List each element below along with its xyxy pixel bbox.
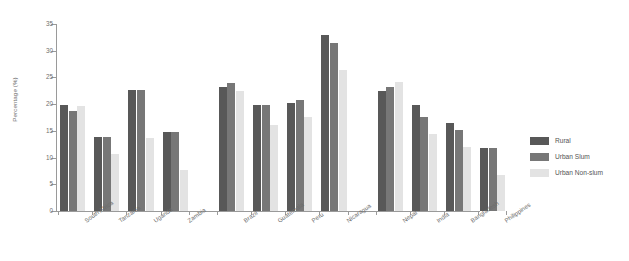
bar	[146, 138, 154, 211]
bar	[395, 82, 403, 211]
x-axis-label: India	[435, 210, 450, 223]
bar	[304, 117, 312, 211]
bar-group	[163, 24, 188, 211]
bar	[378, 91, 386, 211]
bar	[321, 35, 329, 211]
y-tick-label: 10	[46, 154, 53, 161]
y-axis-line	[56, 24, 57, 211]
legend-label: Urban Slum	[555, 153, 590, 160]
bar	[236, 91, 244, 211]
bar	[60, 105, 68, 211]
bar	[171, 132, 179, 211]
y-tick-label: 0	[49, 207, 53, 214]
bar-group	[253, 24, 278, 211]
bar	[296, 100, 304, 211]
legend-item: Urban Slum	[530, 150, 603, 163]
y-tick-label: 5	[49, 180, 53, 187]
bar	[339, 70, 347, 211]
bar	[69, 111, 77, 211]
y-axis-title: Percentage (%)	[11, 50, 18, 150]
legend-swatch	[530, 169, 549, 177]
bar	[219, 87, 227, 211]
bar	[386, 87, 394, 211]
bar-group	[60, 24, 85, 211]
bar-group	[480, 24, 505, 211]
legend-label: Rural	[555, 137, 571, 144]
bar	[270, 125, 278, 211]
bar-group	[128, 24, 153, 211]
y-tick-label: 15	[46, 127, 53, 134]
x-tick-mark	[217, 211, 218, 215]
chart-legend: RuralUrban SlumUrban Non-slum	[530, 134, 603, 182]
bar-group	[378, 24, 403, 211]
bar	[463, 147, 471, 211]
bar	[163, 132, 171, 211]
x-tick-mark	[58, 211, 59, 215]
bar	[446, 123, 454, 211]
plot-area: 05101520253035 South AfricaTanzaniaUgand…	[56, 24, 480, 211]
bar	[227, 83, 235, 211]
bar	[180, 170, 188, 211]
bar	[253, 105, 261, 211]
bar-group	[446, 24, 471, 211]
bar	[128, 90, 136, 211]
legend-swatch	[530, 137, 549, 145]
bar	[77, 106, 85, 211]
y-tick-label: 20	[46, 100, 53, 107]
bar	[137, 90, 145, 211]
bar-group	[219, 24, 244, 211]
bar-chart: Percentage (%) 05101520253035 South Afri…	[0, 0, 629, 261]
bar-group	[94, 24, 119, 211]
bar	[262, 105, 270, 211]
x-axis-label: Philippines	[503, 201, 532, 224]
bar	[480, 148, 488, 211]
legend-swatch	[530, 153, 549, 161]
bar-group	[412, 24, 437, 211]
bar-group	[321, 24, 346, 211]
legend-item: Urban Non-slum	[530, 166, 603, 179]
bar	[287, 103, 295, 211]
bar	[412, 105, 420, 211]
bar	[455, 130, 463, 211]
y-tick-label: 30	[46, 47, 53, 54]
x-tick-mark	[376, 211, 377, 215]
legend-item: Rural	[530, 134, 603, 147]
bar-group	[287, 24, 312, 211]
bar	[420, 117, 428, 211]
bar	[94, 137, 102, 211]
x-axis-label: Zambia	[186, 206, 207, 224]
y-tick-label: 35	[46, 20, 53, 27]
x-axis-label: Peru	[310, 210, 325, 223]
bar	[429, 134, 437, 211]
legend-label: Urban Non-slum	[555, 169, 603, 176]
bar	[330, 43, 338, 211]
y-tick-label: 25	[46, 73, 53, 80]
x-axis-label: Nicaragua	[345, 202, 372, 224]
